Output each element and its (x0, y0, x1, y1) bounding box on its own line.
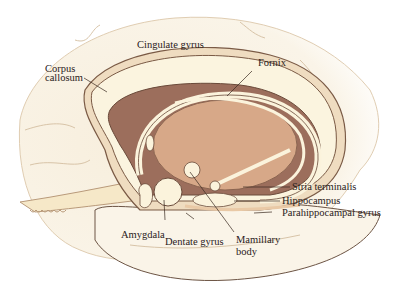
label-corpus-callosum-line2: callosum (45, 73, 83, 83)
label-fornix: Fornix (258, 58, 286, 68)
label-dentate-gyrus: Dentate gyrus (165, 237, 224, 247)
label-cingulate-gyrus: Cingulate gyrus (137, 40, 204, 50)
label-hippocampus: Hippocampus (282, 196, 340, 206)
label-amygdala: Amygdala (121, 230, 165, 240)
limbic-system-diagram: Cingulate gyrus Corpus callosum Fornix S… (0, 0, 406, 290)
label-mamillary-body-line2: body (236, 247, 257, 257)
label-parahippocampal-gyrus: Parahippocampal gyrus (282, 208, 381, 218)
label-mamillary-body-line1: Mamillary (236, 235, 280, 245)
label-stria-terminalis: Stria terminalis (292, 182, 356, 192)
